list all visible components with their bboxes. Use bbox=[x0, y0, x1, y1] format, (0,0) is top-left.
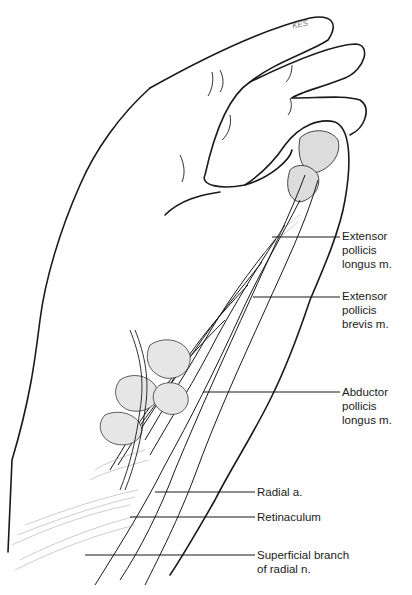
label-line: longus m. bbox=[342, 257, 392, 271]
thumb-bones bbox=[288, 131, 339, 202]
label-line: pollicis bbox=[342, 303, 389, 317]
label-retinaculum: Retinaculum bbox=[257, 510, 321, 524]
label-line: Retinaculum bbox=[257, 510, 321, 524]
label-line: brevis m. bbox=[342, 317, 389, 331]
label-line: Extensor bbox=[342, 229, 392, 243]
label-abductor-pollicis-longus: Abductor pollicis longus m. bbox=[342, 385, 392, 427]
label-line: of radial n. bbox=[257, 562, 349, 576]
carpal-bones bbox=[100, 340, 190, 445]
label-line: longus m. bbox=[342, 413, 392, 427]
label-extensor-pollicis-longus: Extensor pollicis longus m. bbox=[342, 229, 392, 271]
label-line: pollicis bbox=[342, 399, 392, 413]
label-superficial-branch-radial-nerve: Superficial branch of radial n. bbox=[257, 548, 349, 576]
finger-creases bbox=[180, 65, 292, 182]
label-line: Extensor bbox=[342, 289, 389, 303]
label-extensor-pollicis-brevis: Extensor pollicis brevis m. bbox=[342, 289, 389, 331]
label-line: Radial a. bbox=[257, 485, 302, 499]
hand-outline bbox=[8, 17, 366, 575]
label-line: pollicis bbox=[342, 243, 392, 257]
label-line: Abductor bbox=[342, 385, 392, 399]
label-line: Superficial branch bbox=[257, 548, 349, 562]
label-radial-artery: Radial a. bbox=[257, 485, 302, 499]
